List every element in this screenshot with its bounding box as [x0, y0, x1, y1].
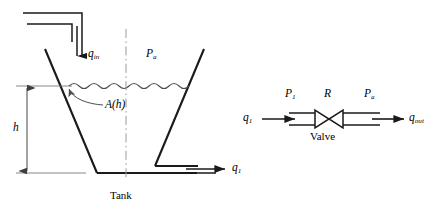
liquid-surface	[69, 84, 189, 89]
surface-area-label: A(h)	[105, 99, 125, 111]
diagram-canvas	[0, 0, 435, 217]
valve-outlet-pressure-subscript: a	[371, 93, 375, 101]
valve-outlet-pressure-label: Pa	[364, 88, 375, 100]
tank-caption: Tank	[110, 190, 132, 201]
tank-ambient-pressure-subscript: a	[153, 53, 157, 61]
valve-resistance-label: R	[324, 88, 331, 100]
tank-body	[45, 49, 204, 173]
valve-inlet-pressure-label: P1	[285, 88, 296, 100]
tank-ambient-pressure-symbol: P	[146, 47, 153, 59]
tank-outflow-subscript: 1	[238, 167, 242, 175]
valve-inflow-symbol: q	[243, 111, 249, 123]
area-leader-line	[69, 89, 103, 105]
valve-outflow-label: qout	[409, 112, 424, 124]
valve-inlet-pressure-symbol: P	[285, 87, 292, 99]
tank-outflow-label: q1	[232, 162, 241, 174]
valve-inflow-subscript: 1	[249, 117, 253, 125]
valve-body-icon	[315, 110, 343, 128]
valve-inlet-pressure-subscript: 1	[292, 93, 296, 101]
tank-inflow-symbol: q	[88, 47, 94, 59]
tank-inflow-label: qin	[88, 48, 99, 60]
tank-inflow-subscript: in	[94, 53, 100, 61]
valve-outlet-pressure-symbol: P	[364, 87, 371, 99]
valve-outflow-subscript: out	[415, 117, 424, 125]
valve-caption: Valve	[310, 131, 335, 142]
height-dimension	[16, 86, 86, 173]
height-label: h	[13, 122, 19, 134]
inlet-pipe	[23, 13, 82, 56]
valve-outflow-symbol: q	[409, 111, 415, 123]
tank-ambient-pressure-label: Pa	[146, 48, 157, 60]
liquid-tank-valve-diagram: qin Pa A(h) h Tank q1 q1 P1 R Pa Valve q…	[0, 0, 435, 217]
valve-inflow-label: q1	[243, 112, 252, 124]
tank-outflow-symbol: q	[232, 161, 238, 173]
